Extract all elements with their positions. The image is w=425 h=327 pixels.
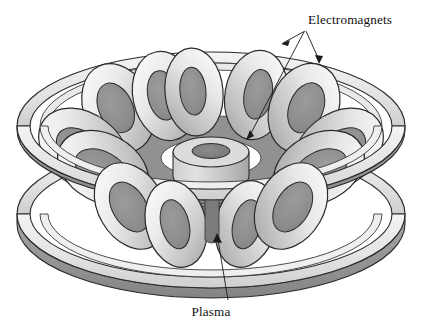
plasma-label: Plasma: [192, 304, 231, 319]
tokamak-figure: Electromagnets Plasma: [0, 0, 425, 327]
tokamak-illustration: Electromagnets Plasma: [0, 0, 425, 327]
arrowhead-right-coil: [315, 55, 323, 64]
arrowhead-upper-ring: [281, 40, 290, 46]
electromagnets-label: Electromagnets: [308, 12, 392, 27]
